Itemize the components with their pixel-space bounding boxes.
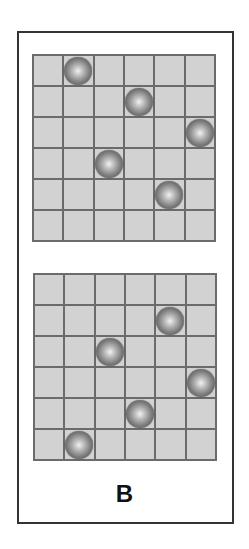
grid-cell [34, 56, 62, 85]
grid-cell [126, 275, 154, 304]
grid-cell [126, 368, 154, 397]
grid-cell [34, 118, 62, 147]
grid-cell [95, 180, 123, 209]
grid-cell [156, 337, 184, 366]
grid-cell [125, 211, 153, 240]
ball-icon [187, 369, 215, 397]
grid-cell [186, 180, 214, 209]
ball-icon [65, 431, 93, 459]
grid-cell [64, 87, 92, 116]
grid-cell [125, 149, 153, 178]
grid-cell [155, 211, 183, 240]
grid-cell [156, 368, 184, 397]
grid-cell [65, 275, 93, 304]
grid-cell [126, 430, 154, 459]
ball-icon [64, 57, 92, 85]
grid-cell [34, 149, 62, 178]
grid-cell [35, 368, 63, 397]
grid-cell [155, 149, 183, 178]
grid-cell [125, 87, 153, 116]
grid-cell [65, 337, 93, 366]
grid-cell [64, 211, 92, 240]
grid-cell [186, 211, 214, 240]
grid-cell [35, 399, 63, 428]
grid-cell [187, 275, 215, 304]
grid-cell [95, 56, 123, 85]
grid-cell [126, 337, 154, 366]
grid-cell [125, 118, 153, 147]
grid-cell [96, 368, 124, 397]
grid-cell [187, 306, 215, 335]
grid-cell [64, 149, 92, 178]
grid-cell [125, 56, 153, 85]
grid-cell [126, 306, 154, 335]
grid-cell [96, 275, 124, 304]
grid-cell [156, 399, 184, 428]
grid-cell [155, 118, 183, 147]
grid-cell [95, 118, 123, 147]
bottom-grid [33, 273, 217, 461]
grid-cell [65, 430, 93, 459]
ball-icon [155, 181, 183, 209]
ball-icon [186, 119, 214, 147]
grid-cell [187, 337, 215, 366]
grid-cell [65, 368, 93, 397]
grid-cell [35, 337, 63, 366]
ball-icon [156, 307, 184, 335]
ball-icon [126, 400, 154, 428]
grid-cell [155, 87, 183, 116]
grid-cell [96, 306, 124, 335]
grid-cell [64, 118, 92, 147]
grid-cell [35, 275, 63, 304]
grid-cell [34, 87, 62, 116]
grid-cell [155, 56, 183, 85]
grid-cell [34, 180, 62, 209]
grid-cell [125, 180, 153, 209]
grid-cell [186, 149, 214, 178]
grid-cell [126, 399, 154, 428]
grid-cell [155, 180, 183, 209]
grid-cell [187, 399, 215, 428]
figure-label: B [0, 480, 249, 508]
grid-cell [186, 87, 214, 116]
grid-cell [35, 306, 63, 335]
grid-cell [65, 399, 93, 428]
grid-cell [186, 118, 214, 147]
grid-cell [95, 149, 123, 178]
grid-cell [64, 56, 92, 85]
grid-cell [156, 306, 184, 335]
grid-cell [96, 337, 124, 366]
grid-cell [156, 430, 184, 459]
top-grid [32, 54, 216, 242]
grid-cell [65, 306, 93, 335]
grid-cell [64, 180, 92, 209]
ball-icon [95, 150, 123, 178]
grid-cell [187, 430, 215, 459]
ball-icon [96, 338, 124, 366]
grid-cell [35, 430, 63, 459]
grid-cell [96, 399, 124, 428]
grid-cell [156, 275, 184, 304]
grid-cell [186, 56, 214, 85]
grid-cell [187, 368, 215, 397]
grid-cell [95, 211, 123, 240]
ball-icon [125, 88, 153, 116]
grid-cell [96, 430, 124, 459]
grid-cell [34, 211, 62, 240]
grid-cell [95, 87, 123, 116]
